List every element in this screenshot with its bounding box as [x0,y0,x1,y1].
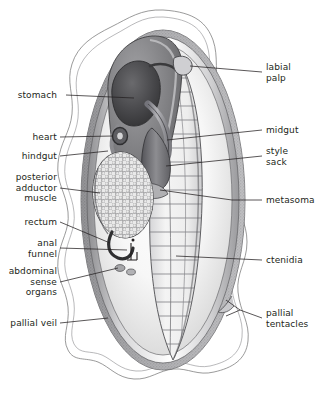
label-abdominal-sense-organs[interactable]: abdominal sense organs [9,266,57,298]
label-posterior-adductor-muscle[interactable]: posterior adductor muscle [16,172,57,204]
label-labial-palp[interactable]: labial palp [266,62,291,83]
label-anal-funnel[interactable]: anal funnel [28,238,57,259]
label-rectum[interactable]: rectum [24,217,57,228]
bivalve-anatomy-figure: stomach heart hindgut posterior adductor… [0,0,327,401]
label-midgut[interactable]: midgut [266,125,299,136]
label-ctenidia[interactable]: ctenidia [266,255,303,266]
label-pallial-tentacles[interactable]: pallial tentacles [266,308,308,329]
heart-lumen [117,132,124,140]
labial-palp [173,56,192,75]
anal-funnel-dot [132,239,135,242]
label-stomach[interactable]: stomach [18,90,57,101]
label-hindgut[interactable]: hindgut [22,151,57,162]
label-heart[interactable]: heart [33,132,58,143]
label-pallial-veil[interactable]: pallial veil [10,318,57,329]
label-style-sack[interactable]: style sack [266,146,288,167]
label-metasoma[interactable]: metasoma [266,195,315,206]
